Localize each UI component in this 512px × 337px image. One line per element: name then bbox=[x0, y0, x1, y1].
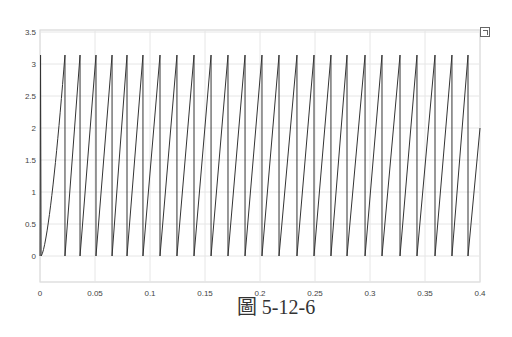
y-tick-label: 3.5 bbox=[25, 28, 37, 37]
y-tick-label: 0 bbox=[32, 252, 37, 261]
expand-axes-icon[interactable] bbox=[480, 27, 490, 37]
y-tick-label: 1 bbox=[32, 188, 37, 197]
figure-caption: 圖 5-12-6 bbox=[0, 291, 512, 320]
y-tick-label: 0.5 bbox=[25, 220, 37, 229]
y-tick-label: 1.5 bbox=[25, 156, 37, 165]
y-tick-label: 2.5 bbox=[25, 92, 37, 101]
sawtooth-chart: 00.511.522.533.500.050.10.150.20.250.30.… bbox=[0, 0, 512, 337]
y-tick-label: 2 bbox=[32, 124, 37, 133]
y-tick-label: 3 bbox=[32, 60, 37, 69]
